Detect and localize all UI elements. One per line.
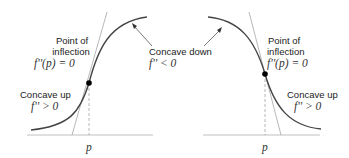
left-concave-down-equation: f'' < 0 [149, 57, 176, 70]
right-inflection-label-1: Point of [268, 35, 300, 46]
right-inflection-label-2: inflection [267, 46, 305, 57]
left-inflection-point [86, 80, 92, 86]
left-inflection-label-2: inflection [51, 46, 91, 57]
left-inflection-label-1: Point of [54, 35, 90, 46]
right-concave-up-equation: f'' > 0 [294, 100, 321, 113]
left-concave-up-equation: f'' > 0 [31, 100, 58, 113]
diagram-graphics [0, 0, 349, 158]
left-inflection-equation: f''(p) = 0 [34, 57, 75, 70]
left-arrow-line [134, 26, 152, 46]
right-concave-up-label: Concave up [287, 89, 338, 100]
right-axis-label-p: p [262, 141, 268, 154]
right-inflection-equation: f''(p) = 0 [267, 57, 308, 70]
left-tangent-line [72, 12, 107, 135]
left-axis-label-p: p [86, 141, 92, 154]
left-concave-down-label: Concave down [149, 46, 212, 57]
left-concave-up-label: Concave up [20, 89, 71, 100]
right-inflection-point [262, 71, 268, 77]
right-arrow-line [204, 30, 220, 46]
concavity-diagram: Point of inflection f''(p) = 0 Concave u… [0, 0, 349, 158]
